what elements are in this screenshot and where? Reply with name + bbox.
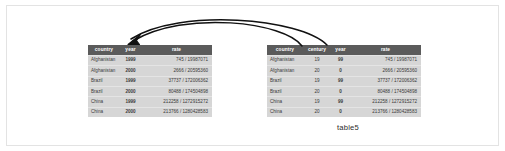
table-row: Brazil 20 0 80488 / 174504898 <box>267 87 421 97</box>
cell-year: 1999 <box>120 97 141 107</box>
cell-country: Afghanistan <box>267 55 303 65</box>
column-header-century[interactable]: century <box>303 45 331 55</box>
cell-rate: 745 / 19987071 <box>350 55 421 65</box>
table-row: Afghanistan 2000 2666 / 20595360 <box>88 66 212 76</box>
cell-country: China <box>88 97 120 107</box>
table-left-header-row: country year rate <box>88 45 212 55</box>
table-row: Afghanistan 1999 745 / 19987071 <box>88 55 212 65</box>
cell-year: 0 <box>331 87 350 97</box>
cell-country: China <box>267 107 303 117</box>
cell-rate: 2666 / 20595360 <box>350 66 421 76</box>
cell-century: 19 <box>303 76 331 86</box>
cell-rate: 212258 / 1272915272 <box>350 97 421 107</box>
cell-year: 2000 <box>120 87 141 97</box>
table-row: Afghanistan 20 0 2666 / 20595360 <box>267 66 421 76</box>
cell-year: 0 <box>331 107 350 117</box>
cell-year: 99 <box>331 76 350 86</box>
cell-century: 20 <box>303 66 331 76</box>
cell-country: China <box>88 107 120 117</box>
cell-rate: 745 / 19987071 <box>141 55 212 65</box>
table-row: Brazil 19 99 37737 / 172006362 <box>267 76 421 86</box>
cell-country: Brazil <box>267 76 303 86</box>
cell-year: 2000 <box>120 66 141 76</box>
cell-year: 0 <box>331 66 350 76</box>
cell-rate: 37737 / 172006362 <box>141 76 212 86</box>
cell-rate: 80488 / 174504898 <box>141 87 212 97</box>
table-row: China 19 99 212258 / 1272915272 <box>267 97 421 107</box>
table-right: country century year rate Afghanistan 19… <box>267 45 421 117</box>
cell-century: 20 <box>303 107 331 117</box>
cell-year: 2000 <box>120 107 141 117</box>
table-left: country year rate Afghanistan 1999 745 /… <box>88 45 212 117</box>
column-header-rate[interactable]: rate <box>350 45 421 55</box>
cell-country: China <box>267 97 303 107</box>
column-header-rate[interactable]: rate <box>141 45 212 55</box>
cell-country: Brazil <box>267 87 303 97</box>
table-row: China 2000 213766 / 1280428583 <box>88 107 212 117</box>
column-header-year[interactable]: year <box>331 45 350 55</box>
cell-rate: 213766 / 1280428583 <box>141 107 212 117</box>
cell-rate: 80488 / 174504898 <box>350 87 421 97</box>
cell-year: 1999 <box>120 55 141 65</box>
cell-century: 20 <box>303 87 331 97</box>
figure-container: country year rate Afghanistan 1999 745 /… <box>0 0 505 151</box>
figure-caption: table5 <box>337 123 359 132</box>
column-header-country[interactable]: country <box>88 45 120 55</box>
cell-year: 1999 <box>120 76 141 86</box>
cell-country: Afghanistan <box>88 66 120 76</box>
table-row: Brazil 2000 80488 / 174504898 <box>88 87 212 97</box>
cell-country: Afghanistan <box>88 55 120 65</box>
cell-century: 19 <box>303 97 331 107</box>
figure-frame <box>6 5 499 146</box>
cell-rate: 213766 / 1280428583 <box>350 107 421 117</box>
cell-rate: 37737 / 172006362 <box>350 76 421 86</box>
cell-year: 99 <box>331 55 350 65</box>
cell-country: Brazil <box>88 76 120 86</box>
column-header-year[interactable]: year <box>120 45 141 55</box>
table-right-header-row: country century year rate <box>267 45 421 55</box>
cell-country: Brazil <box>88 87 120 97</box>
cell-century: 19 <box>303 55 331 65</box>
column-header-country[interactable]: country <box>267 45 303 55</box>
table-row: China 1999 212258 / 1272915272 <box>88 97 212 107</box>
cell-country: Afghanistan <box>267 66 303 76</box>
cell-year: 99 <box>331 97 350 107</box>
table-row: China 20 0 213766 / 1280428583 <box>267 107 421 117</box>
cell-rate: 2666 / 20595360 <box>141 66 212 76</box>
table-row: Afghanistan 19 99 745 / 19987071 <box>267 55 421 65</box>
cell-rate: 212258 / 1272915272 <box>141 97 212 107</box>
table-row: Brazil 1999 37737 / 172006362 <box>88 76 212 86</box>
